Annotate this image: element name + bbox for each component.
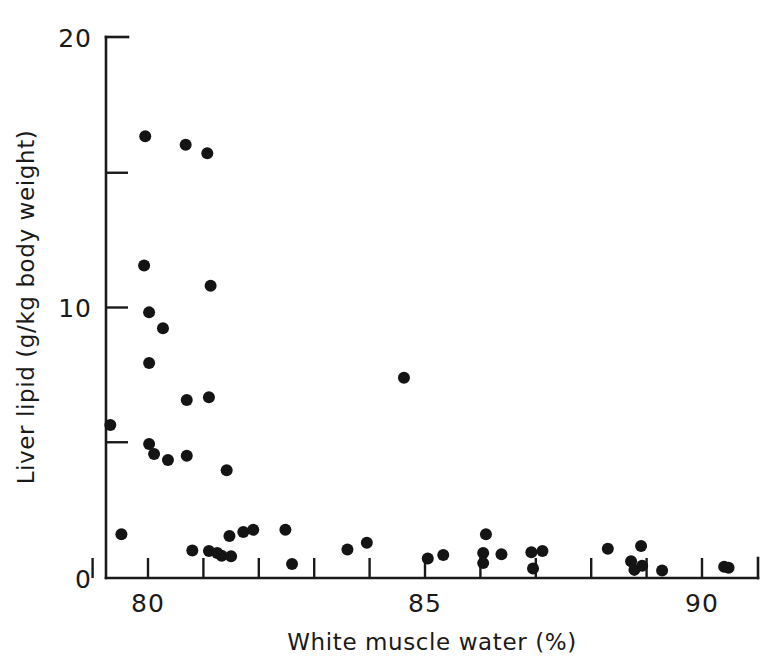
data-point	[723, 562, 735, 574]
data-point	[602, 543, 614, 555]
data-point	[422, 553, 434, 565]
y-axis-ticks	[106, 173, 128, 443]
x-axis-ticks	[93, 558, 702, 578]
data-point	[205, 280, 217, 292]
data-point	[180, 139, 192, 151]
data-point	[398, 372, 410, 384]
plot-canvas: 20 10 0 80 85 90 White muscle water (%) …	[0, 0, 782, 659]
data-point	[115, 528, 127, 540]
x-tick-label-80: 80	[131, 589, 165, 618]
data-point	[536, 545, 548, 557]
data-point	[181, 394, 193, 406]
data-point	[162, 454, 174, 466]
data-point	[157, 322, 169, 334]
x-axis-title: White muscle water (%)	[287, 629, 577, 655]
data-point	[148, 448, 160, 460]
data-point	[237, 526, 249, 538]
data-point	[636, 560, 648, 572]
data-point	[139, 130, 151, 142]
data-point	[286, 558, 298, 570]
data-point	[635, 540, 647, 552]
data-point	[656, 564, 668, 576]
data-point	[495, 548, 507, 560]
data-point	[477, 557, 489, 569]
data-point	[203, 391, 215, 403]
y-tick-label-10: 10	[58, 294, 92, 323]
data-point	[186, 544, 198, 556]
data-point	[225, 550, 237, 562]
data-point	[279, 524, 291, 536]
data-point	[104, 419, 116, 431]
data-points-layer	[104, 130, 734, 576]
y-tick-label-20: 20	[58, 24, 92, 53]
data-point	[181, 450, 193, 462]
data-point	[138, 260, 150, 272]
data-point	[201, 147, 213, 159]
data-point	[341, 544, 353, 556]
data-point	[143, 357, 155, 369]
data-point	[361, 537, 373, 549]
data-point	[437, 549, 449, 561]
x-tick-label-85: 85	[408, 589, 442, 618]
x-tick-label-90: 90	[685, 589, 719, 618]
scatter-plot-figure: 20 10 0 80 85 90 White muscle water (%) …	[0, 0, 782, 659]
y-tick-label-0: 0	[75, 565, 92, 594]
data-point	[247, 524, 259, 536]
data-point	[480, 528, 492, 540]
y-axis-title: Liver lipid (g/kg body weight)	[13, 130, 39, 485]
data-point	[143, 306, 155, 318]
data-point	[223, 530, 235, 542]
data-point	[527, 563, 539, 575]
data-point	[221, 464, 233, 476]
data-point	[525, 546, 537, 558]
